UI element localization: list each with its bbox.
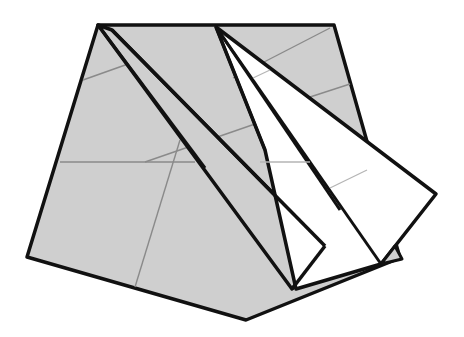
origami-diagram <box>0 0 464 337</box>
origami-diagram-svg <box>0 0 464 337</box>
